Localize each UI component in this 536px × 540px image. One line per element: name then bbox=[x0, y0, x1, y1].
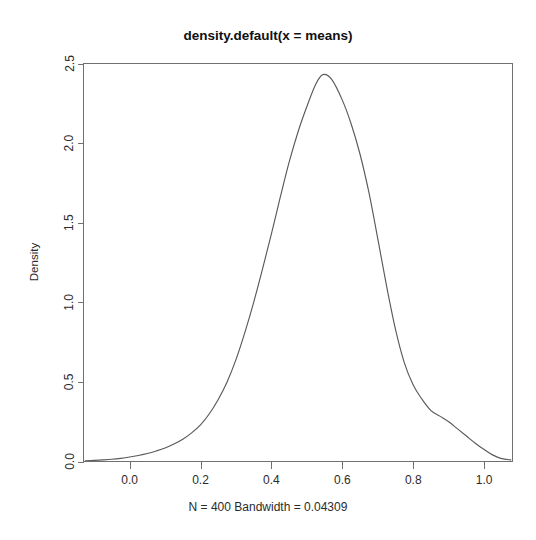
y-tick-label: 2.0 bbox=[63, 134, 77, 151]
y-tick-label: 1.5 bbox=[63, 214, 77, 231]
page-title: density.default(x = means) bbox=[184, 28, 353, 43]
y-tick-label: 1.0 bbox=[63, 294, 77, 311]
plot-canvas: density.default(x = means) 0.00.51.01.52… bbox=[0, 0, 536, 540]
x-tick-label: 0.2 bbox=[192, 473, 209, 487]
y-axis-title: Density bbox=[28, 243, 40, 282]
y-tick-label: 0.0 bbox=[63, 453, 77, 470]
x-tick-label: 0.4 bbox=[263, 473, 280, 487]
y-tick-label: 0.5 bbox=[63, 373, 77, 390]
plot-caption: N = 400 Bandwidth = 0.04309 bbox=[189, 500, 348, 514]
x-tick-label: 0.8 bbox=[405, 473, 422, 487]
x-tick-label: 0.6 bbox=[334, 473, 351, 487]
x-tick-label: 1.0 bbox=[476, 473, 493, 487]
y-tick-label: 2.5 bbox=[63, 55, 77, 72]
plot-background bbox=[0, 0, 536, 540]
x-tick-label: 0.0 bbox=[121, 473, 138, 487]
r-density-plot: density.default(x = means) 0.00.51.01.52… bbox=[0, 0, 536, 540]
